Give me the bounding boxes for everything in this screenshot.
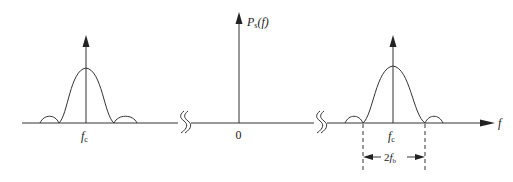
carrier-freq-label-right: fc [388, 129, 395, 144]
psd-axis-label: Ps(f) [246, 15, 269, 30]
psd-y-axis [236, 12, 243, 123]
bandwidth-arrow-right [415, 154, 425, 160]
frequency-axis-label: f [498, 116, 503, 130]
psd-diagram: Ps(f) 0 fc fc f 2fb [0, 0, 513, 182]
x-axis-arrowhead [480, 120, 495, 127]
axis-break-left [181, 111, 191, 133]
bandwidth-arrow-left [363, 154, 373, 160]
axis-break-right [317, 111, 327, 133]
right-carrier-arrowhead [390, 35, 397, 47]
bandwidth-label: 2fb [384, 151, 397, 165]
origin-label: 0 [236, 128, 242, 142]
carrier-freq-label-left: fc [81, 129, 88, 144]
left-spectral-lobe [40, 45, 137, 123]
right-spectral-lobe [345, 45, 443, 123]
left-carrier-arrowhead [83, 35, 90, 47]
